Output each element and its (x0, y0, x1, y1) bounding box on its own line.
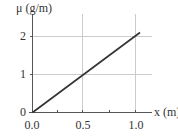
x-tick-label: 0.0 (25, 118, 40, 132)
gridlines (32, 14, 152, 112)
chart: 0.0 0.5 1.0 0 1 2 μ (g/m) x (m) (0, 0, 178, 136)
y-axis-label: μ (g/m) (16, 1, 52, 15)
x-tick-label: 1.0 (129, 118, 144, 132)
y-tick-label: 0 (20, 105, 26, 119)
y-tick-label: 1 (20, 67, 26, 81)
data-line (33, 33, 141, 113)
y-tick-label: 2 (20, 29, 26, 43)
x-tick-label: 0.5 (76, 118, 91, 132)
axes (29, 14, 152, 113)
x-axis-label: x (m) (154, 105, 178, 119)
